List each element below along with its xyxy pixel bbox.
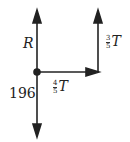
arrow-up-icon [94,10,102,23]
label-3-5T: 35T [106,34,121,50]
arrow-up-icon [33,10,41,23]
arrow-right-icon [86,68,99,76]
label-4-5T: 45T [53,79,68,95]
force-diagram [0,0,130,142]
variable: T [58,78,67,94]
denominator: 5 [53,88,57,95]
variable: T [111,33,120,49]
label-R: R [23,36,34,50]
denominator: 5 [106,43,110,50]
point-dot [34,69,40,75]
label-196: 196 [9,86,36,100]
arrow-down-icon [33,124,41,137]
